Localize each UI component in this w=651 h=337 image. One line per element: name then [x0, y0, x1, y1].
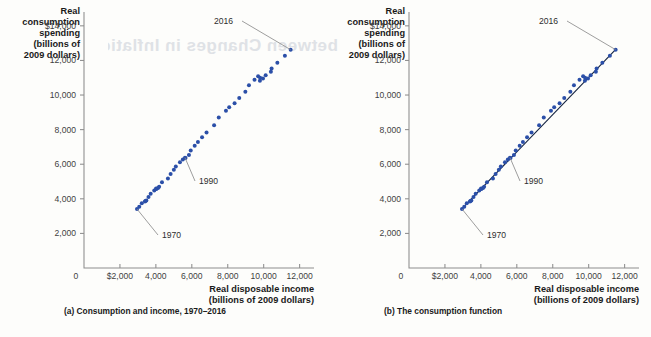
y-axis-tick-label: 6,000 [379, 159, 401, 169]
data-point [608, 54, 612, 58]
annotation-label-1970: 1970 [162, 230, 181, 240]
data-point [160, 180, 164, 184]
data-point [224, 109, 228, 113]
data-point [568, 90, 572, 94]
x-axis-tick-label: 8,000 [217, 271, 239, 281]
annotation-leader-line [242, 21, 291, 50]
annotation-leader-line [137, 209, 158, 235]
x-axis-tick-label: 12,000 [286, 271, 313, 281]
y-axis-tick-label: 2,000 [54, 228, 76, 238]
y-axis-tick-label: 8,000 [379, 125, 401, 135]
data-point [237, 96, 241, 100]
data-point [578, 78, 582, 82]
data-point [491, 177, 495, 181]
y-axis-tick-label: 4,000 [54, 194, 76, 204]
data-point [474, 192, 478, 196]
data-point [243, 90, 247, 94]
y-axis-tick-label: 8,000 [54, 125, 76, 135]
y-axis-tick-label: $14,000 [45, 21, 76, 31]
data-point [589, 73, 593, 77]
annotation-label-1990: 1990 [524, 176, 543, 186]
data-point [562, 96, 566, 100]
y-axis-tick-label: 12,000 [50, 55, 77, 65]
data-point [193, 144, 197, 148]
panel-a-plot: Realconsumptionspending(billions of2009 … [0, 0, 325, 300]
figure-consumption-function: between Changes in Inflation Realconsump… [0, 0, 651, 337]
annotation-label-1990: 1990 [199, 176, 218, 186]
data-point [233, 101, 237, 105]
data-point [552, 105, 556, 109]
data-point [549, 109, 553, 113]
axis-lines [409, 12, 639, 268]
data-point [586, 77, 590, 81]
x-axis-title-line: (billions of 2009 dollars) [534, 295, 639, 305]
data-point [212, 123, 216, 127]
x-axis-tick-label: 10,000 [576, 271, 603, 281]
x-axis-tick-label: $2,000 [432, 271, 459, 281]
data-point [189, 149, 193, 153]
data-point [253, 78, 257, 82]
data-point [187, 153, 191, 157]
data-point [469, 199, 473, 203]
y-axis-title-line: Real [386, 6, 405, 16]
annotation-leader-line [462, 209, 483, 235]
x-axis-tick-label: 6,000 [506, 271, 528, 281]
data-point [205, 130, 209, 134]
y-axis-tick-label: 12,000 [375, 55, 402, 65]
x-axis-tick-label: 6,000 [181, 271, 203, 281]
data-point [247, 83, 251, 87]
data-point [518, 144, 522, 148]
data-point [166, 177, 170, 181]
data-point [514, 149, 518, 153]
y-axis-tick-label: 10,000 [50, 90, 77, 100]
data-point [196, 140, 200, 144]
data-point [503, 160, 507, 164]
x-axis-title-line: Real disposable income [209, 284, 314, 294]
data-point [174, 164, 178, 168]
data-point [275, 61, 279, 65]
y-axis-title-line: (billions of [359, 39, 406, 49]
data-point [521, 140, 525, 144]
axis-lines [84, 12, 314, 268]
data-point [217, 116, 221, 120]
data-point [200, 135, 204, 139]
origin-label: 0 [399, 271, 404, 281]
y-axis-tick-label: 4,000 [379, 194, 401, 204]
data-point [144, 199, 148, 203]
y-axis-tick-label: 10,000 [375, 90, 402, 100]
data-point [494, 172, 498, 176]
annotation-label-2016: 2016 [214, 16, 233, 26]
data-point [283, 54, 287, 58]
data-point [462, 205, 466, 209]
x-axis-tick-label: $2,000 [107, 271, 134, 281]
x-axis-tick-label: 8,000 [542, 271, 564, 281]
data-point [558, 101, 562, 105]
annotation-label-1970: 1970 [487, 230, 506, 240]
data-point [482, 185, 486, 189]
annotation-leader-line [510, 158, 520, 181]
panel-a-caption: (a) Consumption and income, 1970–2016 [64, 306, 226, 316]
data-point [157, 185, 161, 189]
data-point [264, 73, 268, 77]
x-axis-title-line: (billions of 2009 dollars) [209, 295, 314, 305]
data-point [499, 164, 503, 168]
data-point [261, 77, 265, 81]
data-point [512, 153, 516, 157]
data-point [572, 83, 576, 87]
y-axis-tick-label: $14,000 [370, 21, 401, 31]
data-point [485, 180, 489, 184]
panel-b-plot: Realconsumptionspending(billions of2009 … [325, 0, 650, 300]
annotation-leader-line [185, 158, 195, 181]
annotation-label-2016: 2016 [539, 16, 558, 26]
y-axis-tick-label: 6,000 [54, 159, 76, 169]
data-point [169, 172, 173, 176]
panel-a: between Changes in Inflation Realconsump… [0, 0, 325, 337]
data-point [595, 66, 599, 70]
data-point [270, 66, 274, 70]
x-axis-tick-label: 10,000 [251, 271, 278, 281]
data-point [137, 205, 141, 209]
y-axis-tick-label: 2,000 [379, 228, 401, 238]
x-axis-tick-label: 12,000 [611, 271, 638, 281]
data-point [530, 130, 534, 134]
data-point [542, 116, 546, 120]
